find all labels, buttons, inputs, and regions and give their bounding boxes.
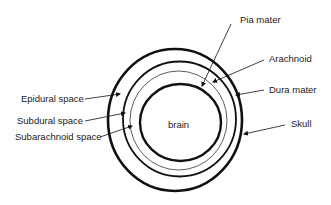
leader-line-epidural-space: [85, 94, 120, 99]
label-subdural-space: Subdural space: [17, 115, 83, 126]
brain-label: brain: [168, 119, 189, 130]
label-dura-mater: Dura mater: [269, 84, 317, 95]
label-arachnoid: Arachnoid: [269, 53, 312, 64]
labels-group: Epidural spaceSubdural spaceSubarachnoid…: [15, 14, 317, 142]
leader-line-arachnoid: [213, 60, 264, 82]
meninges-diagram: Epidural spaceSubdural spaceSubarachnoid…: [0, 0, 331, 205]
leader-line-subarachnoid-space: [100, 126, 132, 137]
label-skull: Skull: [291, 118, 312, 129]
label-epidural-space: Epidural space: [21, 93, 84, 104]
leader-line-subdural-space: [85, 113, 125, 121]
leader-line-skull: [244, 125, 285, 134]
label-pia-mater: Pia mater: [240, 14, 281, 25]
leader-line-dura-mater: [236, 90, 264, 95]
label-subarachnoid-space: Subarachnoid space: [15, 131, 102, 142]
